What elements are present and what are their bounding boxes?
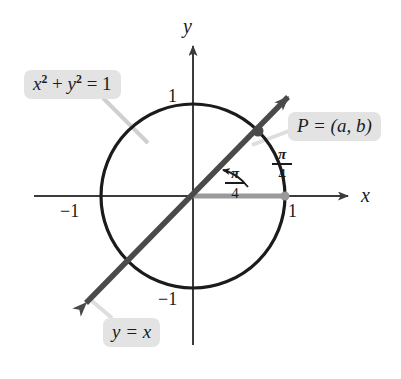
x-axis-label: x	[361, 185, 370, 205]
inner-angle-numerator: π	[225, 166, 245, 182]
y-tick-negative-one: −1	[158, 290, 177, 308]
point-unit-x-marker	[281, 192, 290, 201]
x-tick-positive-one: 1	[288, 202, 297, 220]
callout-circle-equation-y: y	[68, 73, 76, 94]
callout-circle-equation: x2 + y2 = 1	[24, 70, 121, 99]
inner-angle-label: π 4	[225, 166, 245, 201]
point-p-marker	[253, 126, 264, 137]
y-axis-label: y	[183, 16, 192, 36]
outer-angle-fraction-bar	[272, 163, 292, 165]
x-tick-negative-one: −1	[60, 202, 79, 220]
inner-angle-denominator: 4	[225, 185, 245, 201]
outer-angle-label: π 4	[272, 147, 292, 182]
inner-angle-fraction-bar	[225, 182, 245, 184]
callout-circle-equation-equals: = 1	[82, 73, 112, 94]
outer-angle-numerator: π	[272, 147, 292, 163]
outer-angle-denominator: 4	[272, 166, 292, 182]
diagram-canvas	[0, 0, 401, 379]
callout-circle-equation-plus: +	[47, 73, 67, 94]
leader-line-line-equation	[92, 301, 112, 318]
callout-point-p: P = (a, b)	[288, 112, 381, 141]
callout-line-equation: y = x	[103, 318, 160, 347]
unit-circle-figure: y x 1 −1 −1 1 π 4 π 4 x2 + y2 = 1 P = (a…	[0, 0, 401, 379]
y-tick-positive-one: 1	[168, 87, 177, 105]
